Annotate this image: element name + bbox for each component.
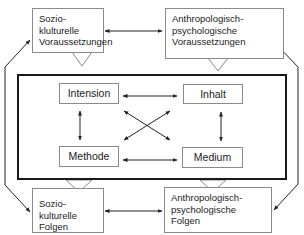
box-inhalt: Inhalt [183,84,243,104]
box-label: Intension [68,87,111,99]
box-intension: Intension [59,83,119,104]
inner-connectors-layer [0,0,304,235]
box-methode: Methode [59,146,119,167]
box-label: Medium [194,151,231,163]
box-label: Methode [69,150,110,162]
box-label: Inhalt [200,88,226,100]
box-medium: Medium [182,147,243,168]
